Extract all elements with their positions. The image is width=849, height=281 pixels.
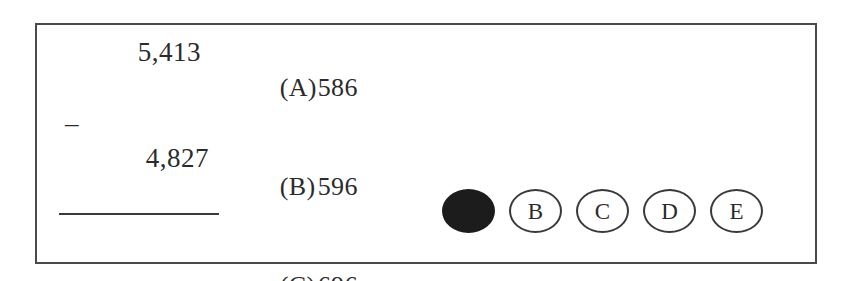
choice-b[interactable]: (B)596 [239, 137, 378, 236]
answer-bubble-b-label: B [528, 200, 543, 223]
choice-b-value: 596 [318, 170, 358, 203]
choice-a-value: 586 [318, 71, 358, 104]
answer-bubble-c[interactable]: C [576, 189, 629, 233]
answer-bubble-c-label: C [595, 200, 610, 223]
choice-b-tag: (B) [280, 170, 318, 203]
problem-subtrahend-row: – 4,827 [59, 71, 219, 215]
choice-c[interactable]: (C)696 [239, 236, 378, 281]
choice-a-tag: (A) [280, 71, 318, 104]
choice-c-value: 696 [318, 269, 358, 281]
answer-bubble-e[interactable]: E [710, 189, 763, 233]
answer-bubble-row: A B C D E [442, 189, 763, 233]
choice-a[interactable]: (A)586 [239, 38, 378, 137]
answer-bubble-e-label: E [729, 200, 743, 223]
answer-choice-list: (A)586 (B)596 (C)696 (D)1,586 (E)1,686 [239, 38, 378, 281]
answer-bubble-d[interactable]: D [643, 189, 696, 233]
choice-c-tag: (C) [280, 269, 318, 281]
question-card: 5,413 – 4,827 (A)586 (B)596 (C)696 (D)1,… [35, 23, 817, 264]
answer-bubble-b[interactable]: B [509, 189, 562, 233]
problem-subtrahend: 4,827 [146, 143, 209, 173]
answer-bubble-a-label: A [460, 200, 477, 223]
arithmetic-problem: 5,413 – 4,827 [59, 35, 219, 215]
problem-minuend: 5,413 [59, 35, 219, 70]
answer-bubble-a[interactable]: A [442, 189, 495, 233]
problem-operator: – [59, 106, 79, 141]
answer-bubble-d-label: D [661, 200, 678, 223]
